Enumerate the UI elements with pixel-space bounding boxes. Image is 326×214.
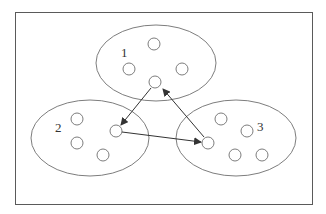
cluster-3-node-4 — [229, 149, 241, 161]
cluster-2-node-4 — [110, 125, 122, 137]
cluster-1-node-2 — [123, 63, 135, 75]
cluster-3-node-5 — [256, 149, 268, 161]
cluster-2-node-2 — [71, 137, 83, 149]
cluster-label: 1 — [121, 45, 128, 60]
cluster-3-node-1 — [215, 113, 227, 125]
cluster-2-node-1 — [71, 113, 83, 125]
cluster-1-node-1 — [148, 38, 160, 50]
cluster-2-node-3 — [97, 149, 109, 161]
cluster-3-node-3 — [202, 137, 214, 149]
diagram-canvas: 123 — [0, 0, 326, 214]
diagram-frame — [16, 13, 313, 205]
cluster-1-node-3 — [176, 63, 188, 75]
cluster-label: 3 — [257, 119, 264, 134]
cluster-1-node-4 — [149, 76, 161, 88]
cluster-3-node-2 — [241, 125, 253, 137]
cluster-label: 2 — [55, 120, 62, 135]
